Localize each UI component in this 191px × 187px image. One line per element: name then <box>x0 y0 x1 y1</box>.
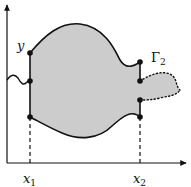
point-x2-lower-mid <box>137 97 143 103</box>
wavy-inlet <box>7 75 30 84</box>
shaded-domain <box>30 24 140 138</box>
point-x2-top <box>137 59 143 65</box>
point-x2-bottom <box>137 114 143 120</box>
label-gamma2: Γ2 <box>151 50 166 67</box>
point-x1-mid <box>27 78 33 84</box>
point-x1-bottom <box>27 114 33 120</box>
label-x2: x2 <box>133 171 146 187</box>
point-x1-top <box>27 50 33 56</box>
diagram-canvas: y Γ2 x1 x2 <box>0 0 191 187</box>
label-x1: x1 <box>23 171 36 187</box>
point-x2-upper-mid <box>137 78 143 84</box>
label-y: y <box>16 38 25 53</box>
